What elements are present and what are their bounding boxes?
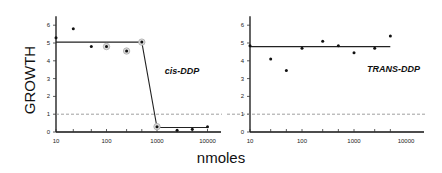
- data-point: [269, 58, 272, 61]
- data-point: [105, 45, 108, 48]
- y-tick-label: 0: [241, 129, 245, 135]
- x-axis-title: nmoles: [197, 149, 245, 166]
- series-label: TRANS-DDP: [367, 64, 421, 74]
- x-tick-label: 1000: [150, 138, 164, 144]
- x-tick-label: 100: [101, 138, 112, 144]
- data-point: [72, 27, 75, 30]
- data-point: [55, 36, 58, 39]
- data-point: [176, 129, 179, 132]
- trans-ddp-panel: 012345610100100010000TRANS-DDP: [227, 16, 425, 144]
- series-label: cis-DDP: [165, 66, 201, 76]
- y-tick-label: 5: [47, 40, 51, 46]
- y-axis-title: GROWTH: [21, 46, 38, 114]
- y-tick-label: 0: [47, 129, 51, 135]
- y-tick-label: 1: [47, 111, 51, 117]
- data-point: [90, 45, 93, 48]
- y-tick-label: 3: [47, 76, 51, 82]
- data-point: [191, 128, 194, 131]
- data-point: [156, 125, 159, 128]
- data-point: [373, 47, 376, 50]
- x-tick-label: 10000: [199, 138, 216, 144]
- y-tick-label: 2: [241, 93, 245, 99]
- growth-figure: GROWTH nmoles 012345610100100010000cis-D…: [0, 0, 442, 173]
- data-point: [285, 69, 288, 72]
- x-tick-label: 10000: [398, 138, 415, 144]
- y-tick-label: 3: [241, 76, 245, 82]
- fit-line: [56, 42, 208, 127]
- data-point: [249, 44, 252, 47]
- data-point: [353, 51, 356, 54]
- x-tick-label: 100: [297, 138, 308, 144]
- x-tick-label: 1000: [347, 138, 361, 144]
- cis-ddp-panel: 012345610100100010000cis-DDP: [47, 16, 222, 144]
- x-tick-label: 10: [247, 138, 254, 144]
- y-tick-label: 4: [47, 58, 51, 64]
- data-point: [301, 47, 304, 50]
- data-point: [206, 125, 209, 128]
- data-point: [140, 41, 143, 44]
- y-tick-label: 6: [47, 22, 51, 28]
- y-tick-label: 5: [241, 40, 245, 46]
- y-tick-label: 6: [241, 22, 245, 28]
- data-point: [125, 50, 128, 53]
- y-tick-label: 4: [241, 58, 245, 64]
- data-point: [337, 44, 340, 47]
- data-point: [389, 34, 392, 37]
- data-point: [321, 40, 324, 43]
- x-tick-label: 10: [53, 138, 60, 144]
- y-tick-label: 2: [47, 93, 51, 99]
